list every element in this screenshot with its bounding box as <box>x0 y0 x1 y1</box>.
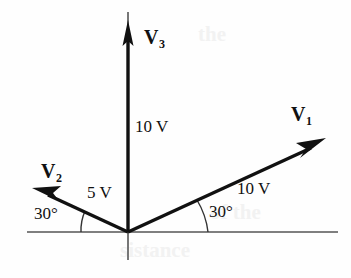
vector-v1-label-name: V <box>291 103 305 125</box>
vector-v3 <box>123 20 134 232</box>
vector-v3-label-subscript: 3 <box>159 37 165 51</box>
vector-v1-label: V1 <box>291 104 312 127</box>
vector-v3-label-name: V <box>144 26 158 48</box>
angle-arc-right <box>197 200 208 232</box>
angle-left-label: 30° <box>34 205 58 222</box>
vector-v2-label-subscript: 2 <box>56 171 62 185</box>
vector-v2-arrowhead <box>32 186 61 201</box>
vector-v3-magnitude-label: 10 V <box>135 118 168 135</box>
vector-v2-magnitude-label: 5 V <box>87 184 112 201</box>
angle-right-label: 30° <box>209 203 233 220</box>
vector-v1-magnitude-label: 10 V <box>237 180 270 197</box>
vector-v3-label: V3 <box>144 27 165 50</box>
vector-diagram-figure: the sistance of the V3 V1 <box>0 0 351 278</box>
vector-v2-label-name: V <box>41 160 55 182</box>
vector-v1-arrowhead <box>296 138 326 158</box>
angle-arc-left <box>81 211 85 232</box>
vector-diagram-canvas <box>0 0 351 278</box>
vector-v1-label-subscript: 1 <box>306 114 312 128</box>
vector-v2-label: V2 <box>41 161 62 184</box>
